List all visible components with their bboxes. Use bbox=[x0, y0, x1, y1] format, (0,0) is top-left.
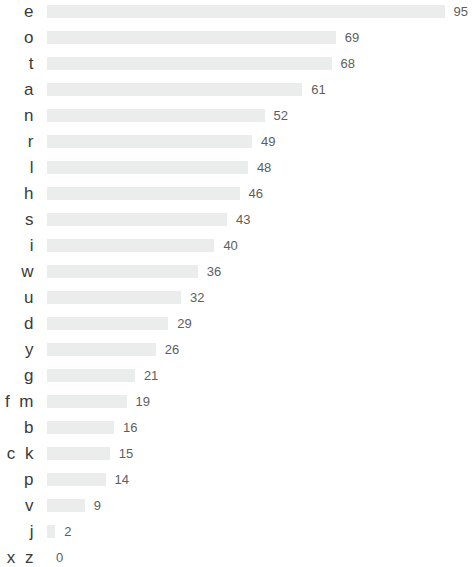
bar-category-label: y bbox=[25, 337, 36, 363]
bar-category-label: e bbox=[24, 0, 36, 25]
bar-value-label: 40 bbox=[223, 233, 237, 259]
bar bbox=[47, 421, 114, 434]
bar-value-label: 21 bbox=[144, 363, 158, 389]
bar-category-label: o bbox=[24, 25, 36, 51]
bar-row: e95 bbox=[0, 0, 476, 25]
bar-category-label: u bbox=[24, 285, 36, 311]
bar-category-label: h bbox=[24, 181, 36, 207]
bar-category-label: s bbox=[25, 207, 36, 233]
bar-value-label: 32 bbox=[190, 285, 204, 311]
bar bbox=[47, 499, 85, 512]
bar-category-label: i bbox=[30, 233, 36, 259]
bar-category-label: c k bbox=[7, 441, 36, 467]
bar-row: h46 bbox=[0, 181, 476, 207]
bar-category-label: b bbox=[24, 415, 36, 441]
bar-row: p14 bbox=[0, 467, 476, 493]
bar-value-label: 16 bbox=[123, 415, 137, 441]
bar-row: l48 bbox=[0, 155, 476, 181]
bar-row: a61 bbox=[0, 77, 476, 103]
bar-category-label: t bbox=[29, 51, 36, 77]
bar-value-label: 19 bbox=[136, 389, 150, 415]
bar-category-label: a bbox=[24, 77, 36, 103]
bar-row: v9 bbox=[0, 493, 476, 519]
bar-row: w36 bbox=[0, 259, 476, 285]
bar-category-label: j bbox=[30, 519, 36, 545]
bar-value-label: 14 bbox=[115, 467, 129, 493]
bar bbox=[47, 317, 168, 330]
bar-row: y26 bbox=[0, 337, 476, 363]
bar bbox=[47, 109, 265, 122]
bar-row: g21 bbox=[0, 363, 476, 389]
bar-value-label: 46 bbox=[249, 181, 263, 207]
bar-category-label: d bbox=[24, 311, 36, 337]
bar-value-label: 9 bbox=[94, 493, 101, 519]
bar bbox=[47, 83, 302, 96]
bar bbox=[47, 239, 214, 252]
bar-value-label: 69 bbox=[345, 25, 359, 51]
bar-value-label: 95 bbox=[454, 0, 468, 25]
bar-value-label: 2 bbox=[64, 519, 71, 545]
bar-value-label: 29 bbox=[177, 311, 191, 337]
bar-row: q x z0 bbox=[0, 545, 476, 567]
bar-row: o69 bbox=[0, 25, 476, 51]
bar-row: r49 bbox=[0, 129, 476, 155]
bar bbox=[47, 135, 252, 148]
bar bbox=[47, 57, 332, 70]
bar-value-label: 36 bbox=[207, 259, 221, 285]
bar bbox=[47, 265, 198, 278]
bar bbox=[47, 5, 445, 18]
bar bbox=[47, 31, 336, 44]
bar-value-label: 52 bbox=[274, 103, 288, 129]
bar-category-label: w bbox=[21, 259, 36, 285]
bar-category-label: f m bbox=[5, 389, 36, 415]
bar-category-label: p bbox=[24, 467, 36, 493]
bar-row: t68 bbox=[0, 51, 476, 77]
bar-value-label: 43 bbox=[236, 207, 250, 233]
bar-row: s43 bbox=[0, 207, 476, 233]
bar bbox=[47, 525, 55, 538]
bar-category-label: q x z bbox=[0, 545, 36, 567]
bar-value-label: 0 bbox=[56, 545, 63, 567]
bar-category-label: l bbox=[30, 155, 36, 181]
bar bbox=[47, 187, 240, 200]
bar-row: d29 bbox=[0, 311, 476, 337]
bar-value-label: 48 bbox=[257, 155, 271, 181]
bar-row: f m19 bbox=[0, 389, 476, 415]
bar-category-label: n bbox=[24, 103, 36, 129]
bar bbox=[47, 447, 110, 460]
bar bbox=[47, 343, 156, 356]
bar bbox=[47, 213, 227, 226]
bar-row: j2 bbox=[0, 519, 476, 545]
bar-row: i40 bbox=[0, 233, 476, 259]
bar-value-label: 68 bbox=[341, 51, 355, 77]
bar-row: n52 bbox=[0, 103, 476, 129]
bar-row: u32 bbox=[0, 285, 476, 311]
bar bbox=[47, 395, 127, 408]
bar-value-label: 61 bbox=[311, 77, 325, 103]
bar-value-label: 26 bbox=[165, 337, 179, 363]
bar bbox=[47, 369, 135, 382]
bar-row: c k15 bbox=[0, 441, 476, 467]
bar-category-label: r bbox=[28, 129, 36, 155]
bar-category-label: v bbox=[25, 493, 36, 519]
bar-category-label: g bbox=[24, 363, 36, 389]
bar bbox=[47, 473, 106, 486]
bar-value-label: 15 bbox=[119, 441, 133, 467]
bar-row: b16 bbox=[0, 415, 476, 441]
bar-value-label: 49 bbox=[261, 129, 275, 155]
bar bbox=[47, 291, 181, 304]
bar bbox=[47, 161, 248, 174]
